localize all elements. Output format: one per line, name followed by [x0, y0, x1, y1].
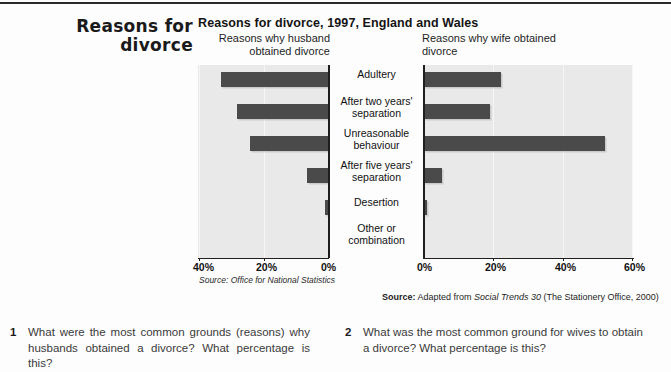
category-label-two-years: After two years' separation	[330, 96, 423, 119]
left-plot-area	[198, 65, 328, 258]
question-2: 2 What was the most common ground for wi…	[345, 325, 645, 356]
question-2-text: What was the most common ground for wive…	[363, 325, 645, 356]
source-text-after: (The Stationery Office, 2000)	[543, 292, 658, 302]
top-rule	[0, 2, 671, 4]
right-gridline-60	[632, 65, 633, 258]
left-bar-unreasonable	[250, 136, 328, 151]
right-axis-label-20: 20%	[485, 261, 506, 273]
left-axis-label-40: 40%	[193, 261, 214, 273]
right-axis-label-60: 60%	[624, 261, 645, 273]
category-label-column: Adultery After two years' separation Unr…	[330, 65, 423, 258]
left-bar-five-years	[307, 168, 328, 183]
main-source-note: Source: Adapted from Social Trends 30 (T…	[382, 292, 659, 302]
right-panel-heading: Reasons why wife obtained divorce	[422, 32, 562, 57]
right-value-axis	[423, 65, 425, 258]
question-1-text: What were the most common grounds (reaso…	[28, 325, 310, 372]
chart-title: Reasons for divorce, 1997, England and W…	[198, 16, 478, 30]
question-1-number: 1	[10, 325, 16, 341]
left-bar-two-years	[237, 104, 328, 119]
category-label-adultery: Adultery	[330, 69, 423, 81]
right-axis-label-40: 40%	[555, 261, 576, 273]
right-bar-five-years	[424, 168, 442, 183]
left-gridline-40	[199, 65, 200, 258]
left-panel-heading: Reasons why husband obtained divorce	[205, 32, 330, 57]
category-label-unreasonable: Unreasonable behaviour	[330, 128, 423, 151]
right-plot-area	[424, 65, 633, 258]
chart-source-note: Source: Office for National Statistics	[199, 275, 335, 285]
left-gridline-20	[264, 65, 265, 258]
section-heading: Reasons for divorce	[58, 17, 193, 55]
category-label-five-years: After five years' separation	[330, 160, 423, 183]
right-bar-unreasonable	[424, 136, 605, 151]
question-1: 1 What were the most common grounds (rea…	[10, 325, 310, 372]
right-axis-label-0: 0%	[417, 261, 432, 273]
right-category-axis	[423, 258, 634, 259]
category-label-desertion: Desertion	[330, 197, 423, 209]
category-label-other: Other or combination	[330, 223, 423, 246]
left-axis-label-0: 0%	[321, 261, 336, 273]
right-bar-adultery	[424, 72, 501, 87]
question-2-number: 2	[345, 325, 351, 341]
right-gridline-20	[493, 65, 494, 258]
left-bar-adultery	[221, 72, 328, 87]
source-text-before: Adapted from	[418, 292, 472, 302]
left-axis-label-20: 20%	[256, 261, 277, 273]
right-gridline-40	[563, 65, 564, 258]
right-bar-two-years	[424, 104, 490, 119]
source-label: Source:	[382, 292, 416, 302]
source-title: Social Trends 30	[474, 292, 541, 302]
worksheet-page: Reasons for divorce Reasons for divorce,…	[0, 0, 671, 372]
